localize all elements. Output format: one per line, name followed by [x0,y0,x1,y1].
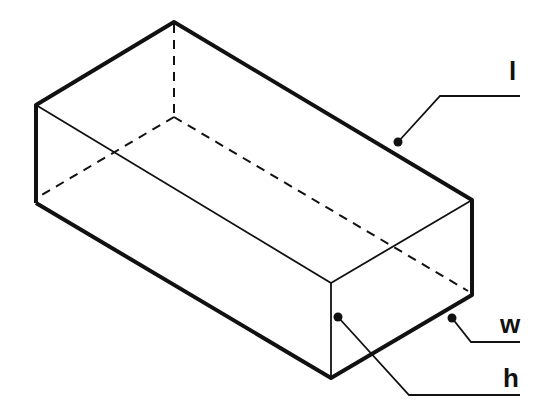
top-front-edge [36,105,331,283]
outline-edges [36,22,472,378]
width-marker-dot [448,314,457,323]
label-length: l [509,56,516,86]
leader-length [398,96,520,142]
height-marker-dot [334,313,343,322]
hidden-edge-right [174,117,468,291]
length-marker-dot [394,138,403,147]
label-height: h [503,363,519,393]
top-right-edge [331,200,472,283]
label-width: w [499,309,521,339]
cuboid-outline [36,22,472,378]
hidden-edge-left [40,117,174,196]
cuboid-diagram: l w h [0,0,541,409]
